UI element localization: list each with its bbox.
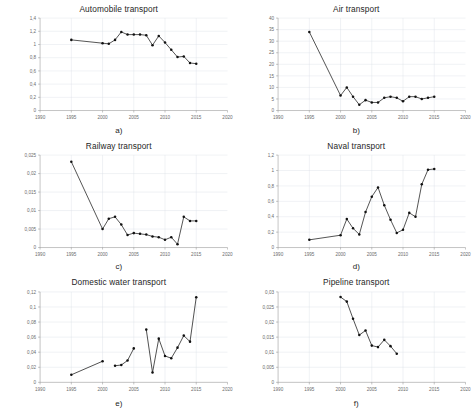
svg-text:0,02: 0,02 bbox=[27, 171, 36, 176]
svg-text:0,8: 0,8 bbox=[30, 55, 37, 60]
svg-text:35: 35 bbox=[268, 27, 274, 32]
svg-text:1995: 1995 bbox=[66, 115, 77, 120]
svg-text:2005: 2005 bbox=[366, 251, 377, 256]
svg-text:30: 30 bbox=[268, 39, 274, 44]
svg-text:2000: 2000 bbox=[335, 115, 346, 120]
svg-text:0,2: 0,2 bbox=[30, 95, 37, 100]
svg-text:2015: 2015 bbox=[429, 251, 440, 256]
chart-plot-domestic-water-transport: 00,020,040,060,080,10,121990199520002005… bbox=[0, 273, 238, 410]
svg-text:2010: 2010 bbox=[160, 387, 171, 392]
chart-plot-railway-transport: 00,0050,010,0150,020,0251990199520002005… bbox=[0, 137, 238, 274]
svg-text:1: 1 bbox=[271, 168, 274, 173]
chart-panel-c: Railway transport 00,0050,010,0150,020,0… bbox=[0, 137, 238, 274]
svg-text:2005: 2005 bbox=[366, 115, 377, 120]
svg-text:20: 20 bbox=[268, 62, 274, 67]
svg-text:2020: 2020 bbox=[460, 251, 471, 256]
svg-text:1990: 1990 bbox=[35, 251, 46, 256]
svg-text:5: 5 bbox=[271, 97, 274, 102]
svg-text:0,02: 0,02 bbox=[265, 320, 274, 325]
svg-text:40: 40 bbox=[268, 16, 274, 21]
svg-text:0: 0 bbox=[34, 380, 37, 385]
svg-text:0,025: 0,025 bbox=[25, 152, 37, 157]
svg-text:2015: 2015 bbox=[191, 251, 202, 256]
svg-text:1: 1 bbox=[34, 42, 37, 47]
svg-text:2015: 2015 bbox=[429, 115, 440, 120]
svg-text:0: 0 bbox=[271, 380, 274, 385]
svg-text:0,6: 0,6 bbox=[30, 69, 37, 74]
svg-text:15: 15 bbox=[268, 74, 274, 79]
svg-text:1995: 1995 bbox=[304, 251, 315, 256]
svg-text:0,4: 0,4 bbox=[267, 214, 274, 219]
chart-panel-d: Naval transport 00,20,40,60,811,21990199… bbox=[238, 137, 475, 274]
chart-panel-b: Air transport 05101520253035401990199520… bbox=[238, 0, 475, 137]
svg-text:2010: 2010 bbox=[397, 115, 408, 120]
svg-text:0,8: 0,8 bbox=[267, 183, 274, 188]
svg-text:2015: 2015 bbox=[191, 387, 202, 392]
svg-text:0,025: 0,025 bbox=[262, 305, 274, 310]
svg-text:0,6: 0,6 bbox=[267, 199, 274, 204]
svg-text:2000: 2000 bbox=[97, 115, 108, 120]
svg-text:0,4: 0,4 bbox=[30, 82, 37, 87]
transport-charts-figure: Automobile transport 00,20,40,60,811,21,… bbox=[0, 0, 475, 410]
svg-text:1990: 1990 bbox=[35, 115, 46, 120]
svg-text:2000: 2000 bbox=[335, 251, 346, 256]
chart-plot-automobile-transport: 00,20,40,60,811,21,419901995200020052010… bbox=[0, 0, 238, 137]
svg-text:2010: 2010 bbox=[160, 115, 171, 120]
svg-text:2005: 2005 bbox=[129, 251, 140, 256]
svg-text:1990: 1990 bbox=[272, 251, 283, 256]
svg-text:2005: 2005 bbox=[129, 387, 140, 392]
svg-text:0,01: 0,01 bbox=[27, 208, 36, 213]
svg-text:10: 10 bbox=[268, 85, 274, 90]
svg-text:2020: 2020 bbox=[222, 115, 233, 120]
svg-text:2010: 2010 bbox=[160, 251, 171, 256]
svg-text:0,005: 0,005 bbox=[262, 365, 274, 370]
svg-text:2015: 2015 bbox=[429, 387, 440, 392]
chart-panel-a: Automobile transport 00,20,40,60,811,21,… bbox=[0, 0, 238, 137]
svg-text:0,2: 0,2 bbox=[267, 229, 274, 234]
svg-text:2005: 2005 bbox=[366, 387, 377, 392]
svg-text:0,1: 0,1 bbox=[30, 305, 37, 310]
chart-plot-naval-transport: 00,20,40,60,811,219901995200020052010201… bbox=[238, 137, 475, 274]
svg-text:0,02: 0,02 bbox=[27, 365, 36, 370]
svg-text:2020: 2020 bbox=[222, 251, 233, 256]
svg-text:1995: 1995 bbox=[66, 387, 77, 392]
chart-caption-d: d) bbox=[238, 262, 475, 271]
svg-text:2020: 2020 bbox=[460, 387, 471, 392]
svg-text:1995: 1995 bbox=[304, 387, 315, 392]
svg-text:1995: 1995 bbox=[304, 115, 315, 120]
svg-text:0,08: 0,08 bbox=[27, 320, 36, 325]
svg-text:0: 0 bbox=[271, 108, 274, 113]
svg-text:0,03: 0,03 bbox=[265, 290, 274, 295]
svg-text:2015: 2015 bbox=[191, 115, 202, 120]
svg-text:2020: 2020 bbox=[460, 115, 471, 120]
svg-text:1990: 1990 bbox=[272, 115, 283, 120]
svg-text:25: 25 bbox=[268, 50, 274, 55]
chart-caption-a: a) bbox=[0, 126, 238, 135]
svg-text:0,06: 0,06 bbox=[27, 335, 36, 340]
svg-text:2010: 2010 bbox=[397, 387, 408, 392]
svg-text:0: 0 bbox=[34, 108, 37, 113]
chart-plot-pipeline-transport: 00,0050,010,0150,020,0250,03199019952000… bbox=[238, 273, 475, 410]
svg-text:2000: 2000 bbox=[335, 387, 346, 392]
chart-plot-air-transport: 0510152025303540199019952000200520102015… bbox=[238, 0, 475, 137]
svg-text:1,2: 1,2 bbox=[267, 152, 274, 157]
svg-text:0: 0 bbox=[34, 245, 37, 250]
svg-text:1995: 1995 bbox=[66, 251, 77, 256]
svg-text:1990: 1990 bbox=[35, 387, 46, 392]
chart-caption-b: b) bbox=[238, 126, 475, 135]
chart-panel-e: Domestic water transport 00,020,040,060,… bbox=[0, 273, 238, 410]
svg-text:2005: 2005 bbox=[129, 115, 140, 120]
svg-text:2020: 2020 bbox=[222, 387, 233, 392]
svg-text:0: 0 bbox=[271, 245, 274, 250]
svg-text:1,2: 1,2 bbox=[30, 29, 37, 34]
svg-text:2000: 2000 bbox=[97, 387, 108, 392]
svg-text:0,015: 0,015 bbox=[262, 335, 274, 340]
chart-caption-e: e) bbox=[0, 399, 238, 408]
svg-text:0,12: 0,12 bbox=[27, 290, 36, 295]
chart-panel-f: Pipeline transport 00,0050,010,0150,020,… bbox=[238, 273, 475, 410]
chart-caption-c: c) bbox=[0, 262, 238, 271]
svg-text:0,01: 0,01 bbox=[265, 350, 274, 355]
svg-text:0,04: 0,04 bbox=[27, 350, 36, 355]
svg-text:0,005: 0,005 bbox=[25, 226, 37, 231]
svg-text:0,015: 0,015 bbox=[25, 189, 37, 194]
